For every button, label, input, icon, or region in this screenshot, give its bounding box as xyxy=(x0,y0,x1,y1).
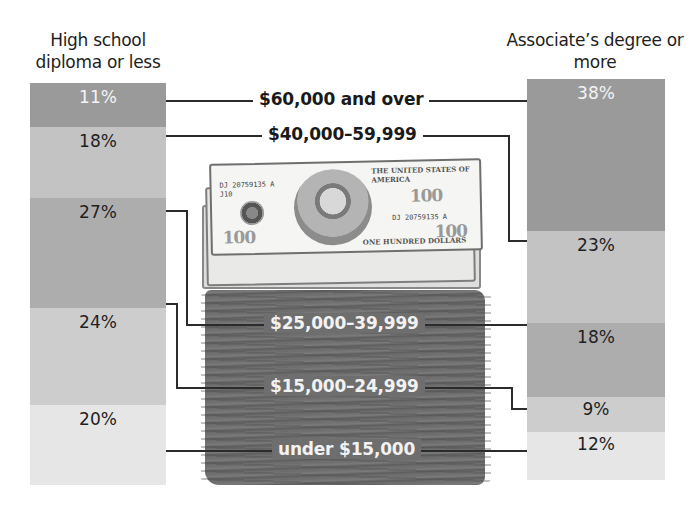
bill-bottom-text: ONE HUNDRED DOLLARS xyxy=(363,235,467,246)
right-segment-15k-24k: 9% xyxy=(527,397,665,432)
segment-value: 23% xyxy=(577,235,615,255)
right-segment-25k-39k: 18% xyxy=(527,323,665,397)
segment-value: 20% xyxy=(79,409,117,429)
leader-line-40k-59k-vertical xyxy=(508,135,510,241)
income-label-25k-39k: $25,000–39,999 xyxy=(264,313,425,333)
segment-value: 24% xyxy=(79,312,117,332)
segment-value: 12% xyxy=(577,434,615,454)
right-segment-60k-plus: 38% xyxy=(527,79,665,231)
leader-line-25k-39k-vertical xyxy=(186,210,188,325)
bill-front: THE UNITED STATES OF AMERICA DJ 20759135… xyxy=(209,158,483,256)
bill-serial-sub: J10 xyxy=(220,190,233,198)
right-segment-under-15k: 12% xyxy=(527,432,665,480)
left-segment-60k-plus: 11% xyxy=(30,83,166,127)
right-stacked-bar: 38% 23% 18% 9% 12% xyxy=(527,79,665,480)
segment-value: 11% xyxy=(79,87,117,107)
income-label-40k-59k: $40,000–59,999 xyxy=(262,124,423,144)
leader-line-25k-39k-start xyxy=(166,210,187,212)
leader-line-15k-24k-vertical-left xyxy=(176,303,178,388)
treasury-seal-icon xyxy=(240,201,264,225)
left-segment-40k-59k: 18% xyxy=(30,127,166,198)
bill-serial-left: DJ 20759135 A xyxy=(219,180,274,189)
left-segment-15k-24k: 24% xyxy=(30,308,166,405)
segment-value: 9% xyxy=(583,399,610,419)
right-column-title: Associate’s degree or more xyxy=(495,29,695,73)
income-label-60k-plus: $60,000 and over xyxy=(253,89,429,109)
bill-denomination-center: 100 xyxy=(410,185,443,206)
income-label-under-15k: under $15,000 xyxy=(272,439,421,459)
portrait-icon xyxy=(293,168,373,246)
hundred-dollar-bills-illustration: THE UNITED STATES OF AMERICA DJ 20759135… xyxy=(200,155,490,290)
left-segment-25k-39k: 27% xyxy=(30,198,166,308)
bill-top-text: THE UNITED STATES OF AMERICA xyxy=(371,164,479,184)
leader-line-15k-24k-end xyxy=(511,408,527,410)
income-label-15k-24k: $15,000–24,999 xyxy=(264,376,425,396)
segment-value: 27% xyxy=(79,202,117,222)
segment-value: 18% xyxy=(79,131,117,151)
right-segment-40k-59k: 23% xyxy=(527,231,665,323)
leader-line-40k-59k-end xyxy=(508,240,527,242)
segment-value: 18% xyxy=(577,327,615,347)
bill-denomination-left: 100 xyxy=(222,227,255,248)
leader-line-15k-24k-vertical-right xyxy=(511,387,513,409)
segment-value: 38% xyxy=(577,83,615,103)
left-column-title: High school diploma or less xyxy=(22,29,174,73)
left-segment-under-15k: 20% xyxy=(30,405,166,485)
left-stacked-bar: 11% 18% 27% 24% 20% xyxy=(30,83,166,485)
